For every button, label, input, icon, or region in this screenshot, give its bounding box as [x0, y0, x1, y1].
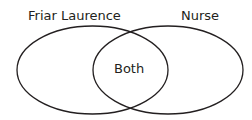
- set-label-nurse: Nurse: [181, 8, 219, 23]
- set-label-friar-laurence: Friar Laurence: [28, 8, 121, 23]
- venn-diagram: Friar Laurence Nurse Both: [0, 0, 252, 120]
- intersection-label-both: Both: [114, 61, 144, 76]
